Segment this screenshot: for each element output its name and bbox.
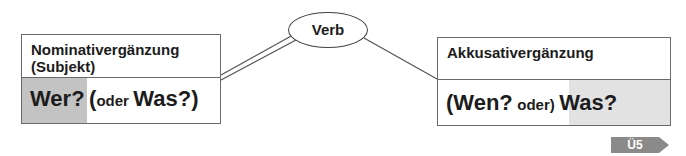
nominative-subtitle: (Subjekt) (31, 58, 220, 75)
question-was: Was? (559, 90, 617, 115)
exercise-tag-label: Ü5 (611, 137, 659, 153)
nominative-complement-box: Nominativergänzung (Subjekt) Wer? (oder … (21, 34, 221, 124)
left-connector-line-1 (221, 35, 293, 75)
nominative-box-header: Nominativergänzung (Subjekt) (22, 35, 220, 78)
nominative-question: Wer? (oder Was?) (30, 86, 199, 112)
verb-label: Verb (312, 21, 345, 38)
exercise-tag-u5[interactable]: Ü5 (611, 137, 669, 153)
question-was: Was?) (133, 86, 198, 111)
left-connector-line-2 (221, 40, 296, 80)
accusative-box-header: Akkusativergänzung (438, 38, 670, 80)
accusative-title: Akkusativergänzung (447, 44, 670, 61)
word-oder: oder (96, 92, 129, 109)
question-wen: (Wen? (446, 90, 513, 115)
question-wer: Wer? (30, 86, 85, 111)
right-connector-line (364, 38, 437, 79)
nominative-title: Nominativergänzung (31, 41, 220, 58)
word-oder: oder) (517, 96, 555, 113)
nominative-box-body: Wer? (oder Was?) (22, 78, 220, 123)
accusative-box-body: (Wen? oder) Was? (438, 80, 670, 125)
verb-node: Verb (288, 12, 368, 48)
accusative-complement-box: Akkusativergänzung (Wen? oder) Was? (437, 37, 671, 126)
accusative-question: (Wen? oder) Was? (446, 90, 617, 116)
